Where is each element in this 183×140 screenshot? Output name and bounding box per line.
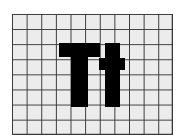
lowercase-t-crossbar bbox=[99, 58, 125, 70]
capital-t-stem bbox=[71, 43, 88, 107]
text-icon-canvas: Tt bbox=[0, 0, 183, 140]
glyph-text: Tt bbox=[0, 0, 1, 1]
pixel-grid bbox=[12, 14, 173, 135]
lowercase-t-stem bbox=[105, 43, 120, 107]
